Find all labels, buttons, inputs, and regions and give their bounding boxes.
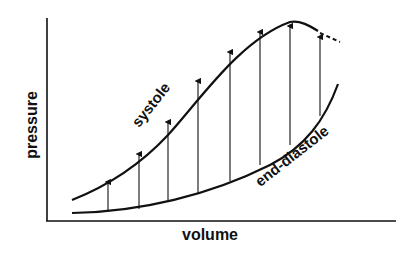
y-axis-label: pressure [23, 91, 40, 159]
pressure-volume-diagram: pressure volume systole end-diastole [0, 0, 419, 256]
end-diastole-label: end-diastole [252, 122, 332, 190]
x-axis-label: volume [182, 226, 238, 243]
systole-label: systole [128, 79, 173, 130]
systole-curve-dashed-extension [320, 33, 340, 42]
